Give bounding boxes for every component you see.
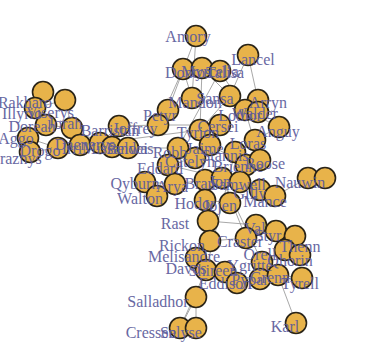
node-label-jorah: Jorah (48, 115, 83, 132)
node-label-loras: Loras (230, 135, 266, 152)
node-label-talisa: Talisa (206, 64, 244, 81)
node-label-selyse: Selyse (160, 324, 202, 342)
node-label-styr: Styr (255, 227, 282, 245)
node-label-barristan: Barristan (81, 122, 140, 139)
node-label-cersei: Cersei (198, 118, 239, 135)
node-label-amory: Amory (165, 28, 210, 46)
node-label-jojen: Jojen (203, 197, 237, 215)
node-label-karl: Karl (271, 318, 300, 335)
network-graph: AmoryLancelDontosMyrcellaTalisaArrynSans… (0, 0, 373, 362)
node-label-rast: Rast (161, 215, 190, 232)
node-label-belwas: Belwas (106, 140, 153, 157)
node-label-kraznys: Kraznys (0, 150, 42, 168)
node-label-salladhor: Salladhor (127, 293, 189, 310)
node-label-roose: Roose (245, 155, 285, 172)
label-layer: AmoryLancelDontosMyrcellaTalisaArrynSans… (0, 28, 325, 342)
node-label-walton: Walton (117, 190, 163, 207)
node-label-tyrell: Tyrell (281, 275, 320, 293)
node-label-mance: Mance (243, 193, 287, 210)
node-label-qhorin: Qhorin (267, 252, 312, 269)
node-label-nauwin: Nauwin (275, 174, 326, 191)
